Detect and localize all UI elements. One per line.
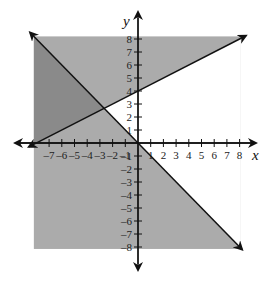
y-tick-label: –6 [120, 215, 133, 227]
x-tick-label: –4 [81, 149, 94, 161]
y-tick-label: –5 [120, 202, 133, 214]
x-tick-label: 7 [224, 149, 230, 161]
x-tick-label: 5 [199, 149, 205, 161]
y-tick-label: –2 [120, 163, 132, 175]
x-tick-label: 4 [186, 149, 192, 161]
y-tick-label: –8 [120, 241, 133, 253]
y-tick-label: 5 [127, 72, 133, 84]
y-tick-label: –3 [120, 176, 133, 188]
x-tick-label: 8 [237, 149, 243, 161]
x-tick-label: –2 [106, 149, 118, 161]
x-tick-label: –5 [68, 149, 81, 161]
y-tick-label: 8 [127, 33, 133, 45]
x-tick-label: 2 [161, 149, 167, 161]
x-tick-label: 3 [173, 149, 179, 161]
x-tick-label: –7 [43, 149, 56, 161]
y-axis-label: y [121, 13, 130, 29]
x-tick-label: –6 [55, 149, 68, 161]
coordinate-plane: –7–6–5–4–3–2–112345678–8–7–6–5–4–3–2–112… [0, 0, 275, 286]
y-tick-label: –4 [120, 189, 133, 201]
y-tick-label: –1 [120, 150, 132, 162]
x-axis-label: x [251, 147, 259, 163]
y-tick-label: 7 [127, 46, 133, 58]
y-tick-label: 6 [127, 59, 133, 71]
x-tick-label: 6 [211, 149, 217, 161]
x-tick-label: –3 [93, 149, 106, 161]
y-tick-label: 3 [127, 98, 133, 110]
y-tick-label: 2 [127, 111, 133, 123]
y-tick-label: –7 [120, 228, 133, 240]
